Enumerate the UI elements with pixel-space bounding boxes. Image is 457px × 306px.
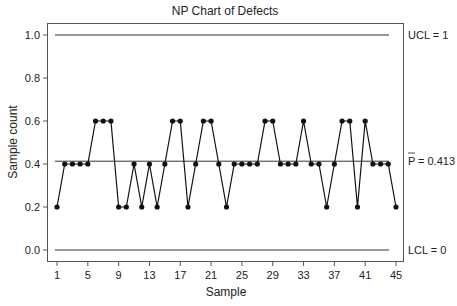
series-line xyxy=(57,121,396,207)
lcl-label: LCL = 0 xyxy=(408,244,446,256)
data-point xyxy=(162,161,167,166)
data-point xyxy=(185,204,190,209)
data-point xyxy=(216,161,221,166)
np-chart: NP Chart of Defects 0.00.20.40.60.81.0 1… xyxy=(0,0,457,306)
data-point xyxy=(247,161,252,166)
x-tick-label: 45 xyxy=(390,269,402,281)
x-tick-label: 25 xyxy=(236,269,248,281)
data-point xyxy=(270,118,275,123)
data-point xyxy=(316,161,321,166)
ucl-label: UCL = 1 xyxy=(408,29,448,41)
x-tick-label: 21 xyxy=(205,269,217,281)
data-point xyxy=(378,161,383,166)
chart-title: NP Chart of Defects xyxy=(172,4,279,18)
y-tick-label: 0.0 xyxy=(25,244,40,256)
data-point xyxy=(116,204,121,209)
data-point xyxy=(355,204,360,209)
x-tick-label: 13 xyxy=(143,269,155,281)
center-line-label: P = 0.413 xyxy=(408,153,455,167)
data-point xyxy=(363,118,368,123)
y-axis-label: Sample count xyxy=(6,105,20,179)
data-point xyxy=(301,118,306,123)
y-tick-label: 0.4 xyxy=(25,158,40,170)
y-tick-label: 0.6 xyxy=(25,115,40,127)
data-point xyxy=(54,204,59,209)
svg-text:P: P xyxy=(408,155,415,167)
data-point xyxy=(124,204,129,209)
svg-text:UCL = 1: UCL = 1 xyxy=(408,29,448,41)
data-point xyxy=(193,161,198,166)
data-point xyxy=(370,161,375,166)
data-point xyxy=(201,118,206,123)
x-axis-label: Sample xyxy=(206,285,247,299)
data-point xyxy=(93,118,98,123)
y-axis: 0.00.20.40.60.81.0 xyxy=(25,29,48,256)
data-point xyxy=(139,204,144,209)
x-tick-label: 41 xyxy=(359,269,371,281)
data-point xyxy=(62,161,67,166)
y-tick-label: 0.2 xyxy=(25,201,40,213)
data-point xyxy=(324,204,329,209)
data-point xyxy=(232,161,237,166)
data-point xyxy=(386,161,391,166)
data-point xyxy=(155,204,160,209)
x-tick-label: 5 xyxy=(85,269,91,281)
data-point xyxy=(332,161,337,166)
y-tick-label: 1.0 xyxy=(25,29,40,41)
data-series xyxy=(54,118,398,209)
data-point xyxy=(178,118,183,123)
data-point xyxy=(70,161,75,166)
data-point xyxy=(108,118,113,123)
data-point xyxy=(239,161,244,166)
svg-text:LCL = 0: LCL = 0 xyxy=(408,244,446,256)
data-point xyxy=(393,204,398,209)
data-point xyxy=(170,118,175,123)
data-point xyxy=(85,161,90,166)
data-point xyxy=(293,161,298,166)
y-tick-label: 0.8 xyxy=(25,72,40,84)
data-point xyxy=(347,118,352,123)
data-point xyxy=(255,161,260,166)
data-point xyxy=(339,118,344,123)
data-point xyxy=(309,161,314,166)
control-limits xyxy=(55,35,389,250)
x-tick-label: 37 xyxy=(328,269,340,281)
data-point xyxy=(278,161,283,166)
data-point xyxy=(147,161,152,166)
x-tick-label: 1 xyxy=(54,269,60,281)
x-tick-label: 33 xyxy=(297,269,309,281)
x-tick-label: 9 xyxy=(116,269,122,281)
svg-text:= 0.413: = 0.413 xyxy=(418,155,455,167)
data-point xyxy=(224,204,229,209)
x-tick-label: 17 xyxy=(174,269,186,281)
data-point xyxy=(101,118,106,123)
x-tick-label: 29 xyxy=(267,269,279,281)
data-point xyxy=(286,161,291,166)
plot-frame xyxy=(48,24,404,262)
data-point xyxy=(131,161,136,166)
data-point xyxy=(262,118,267,123)
data-point xyxy=(208,118,213,123)
x-axis: 159131721252933374145 xyxy=(54,262,402,282)
data-point xyxy=(78,161,83,166)
